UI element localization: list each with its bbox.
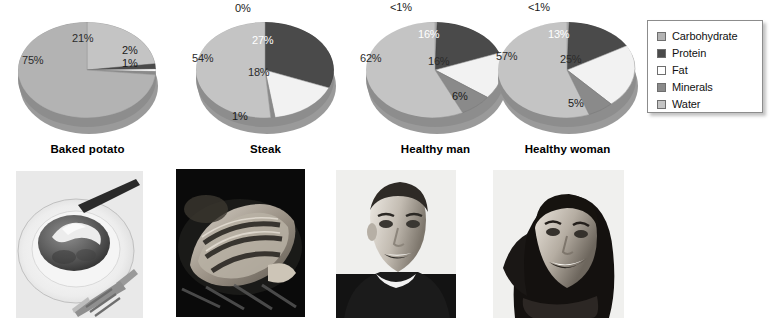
slice-label: <1% bbox=[390, 1, 412, 13]
protein-swatch-icon bbox=[657, 49, 666, 58]
legend-label: Carbohydrate bbox=[672, 31, 737, 42]
slice-label: 16% bbox=[418, 28, 439, 40]
chart-baked-potato: 75% 21% 2% 1% Baked potato bbox=[0, 0, 175, 175]
carbohydrate-swatch-icon bbox=[657, 32, 666, 41]
legend-label: Minerals bbox=[672, 82, 713, 93]
water-swatch-icon bbox=[657, 100, 666, 109]
minerals-swatch-icon bbox=[657, 83, 666, 92]
nutrient-composition-figure: 75% 21% 2% 1% Baked potato bbox=[0, 0, 770, 329]
slice-label: 25% bbox=[560, 53, 581, 65]
legend: Carbohydrate Protein Fat Minerals Water bbox=[647, 20, 763, 113]
chart-title-baked-potato: Baked potato bbox=[0, 143, 175, 155]
slice-label: 57% bbox=[496, 50, 517, 62]
slice-label: 1% bbox=[122, 57, 138, 69]
slice-label: 75% bbox=[22, 54, 43, 66]
legend-item-protein[interactable]: Protein bbox=[657, 45, 762, 62]
chart-title-healthy-woman: Healthy woman bbox=[480, 143, 655, 155]
slice-label: 6% bbox=[452, 90, 468, 102]
chart-area: <1% 13% 25% 5% 57% bbox=[480, 0, 655, 140]
slice-label: 54% bbox=[192, 52, 213, 64]
slice-label: 0% bbox=[235, 2, 251, 14]
healthy-man-photo bbox=[336, 170, 456, 318]
slice-label: 62% bbox=[360, 52, 381, 64]
chart-area: 0% 27% 18% 54% 1% bbox=[178, 0, 353, 140]
legend-label: Water bbox=[672, 99, 700, 110]
slice-label: 16% bbox=[428, 55, 449, 67]
steak-photo bbox=[176, 169, 305, 317]
slice-label: 5% bbox=[568, 97, 584, 109]
slice-label: 13% bbox=[548, 28, 569, 40]
legend-item-fat[interactable]: Fat bbox=[657, 62, 762, 79]
legend-item-carbohydrate[interactable]: Carbohydrate bbox=[657, 28, 762, 45]
chart-steak: 0% 27% 18% 54% 1% Steak bbox=[178, 0, 353, 175]
legend-item-minerals[interactable]: Minerals bbox=[657, 79, 762, 96]
legend-label: Fat bbox=[672, 65, 688, 76]
healthy-woman-photo bbox=[493, 170, 624, 318]
chart-healthy-woman: <1% 13% 25% 5% 57% Healthy woman bbox=[480, 0, 655, 175]
legend-item-water[interactable]: Water bbox=[657, 96, 762, 113]
slice-label: <1% bbox=[528, 1, 550, 13]
slice-label: 18% bbox=[248, 66, 269, 78]
chart-title-steak: Steak bbox=[178, 143, 353, 155]
chart-area: 75% 21% 2% 1% bbox=[0, 0, 175, 140]
slice-label: 2% bbox=[122, 44, 138, 56]
fat-swatch-icon bbox=[657, 66, 666, 75]
slice-label: 21% bbox=[72, 32, 93, 44]
slice-label: 27% bbox=[252, 34, 273, 46]
legend-label: Protein bbox=[672, 48, 706, 59]
baked-potato-photo bbox=[16, 171, 143, 318]
slice-label: 1% bbox=[232, 110, 248, 122]
